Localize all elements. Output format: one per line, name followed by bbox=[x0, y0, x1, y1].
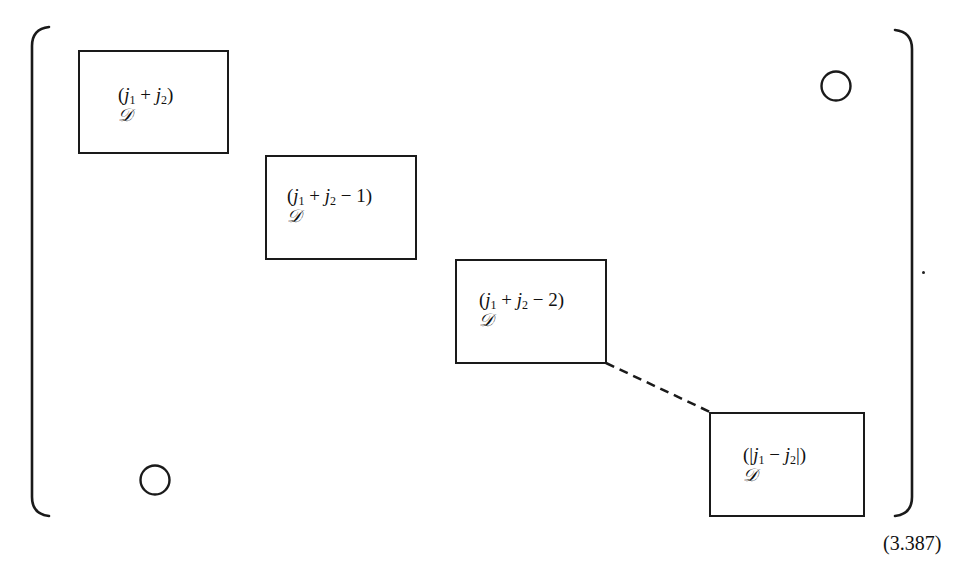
script-d-symbol: 𝒟 bbox=[479, 310, 564, 330]
paren-close: ) bbox=[800, 444, 806, 465]
operator: + bbox=[497, 289, 517, 310]
block-label: (j1 + j2 − 2) 𝒟 bbox=[479, 290, 564, 330]
paren-close: ) bbox=[366, 185, 372, 206]
paren-close: ) bbox=[558, 289, 564, 310]
label-tail: − 1 bbox=[336, 185, 366, 206]
script-d-symbol: 𝒟 bbox=[287, 206, 372, 226]
script-d-symbol: 𝒟 bbox=[743, 465, 806, 485]
label-tail: − 2 bbox=[528, 289, 558, 310]
paren-close: ) bbox=[167, 84, 173, 105]
block-label: (j1 + j2) 𝒟 bbox=[118, 85, 173, 125]
continuation-dashed-line bbox=[606, 363, 710, 412]
zero-marker-lower-left bbox=[141, 466, 170, 495]
block-abs-j1-minus-j2: (|j1 − j2|) 𝒟 bbox=[709, 412, 865, 517]
left-bracket bbox=[32, 27, 49, 516]
equation-number: (3.387) bbox=[883, 532, 941, 555]
operator: + bbox=[136, 84, 156, 105]
operator: − bbox=[764, 444, 784, 465]
paren-open: (| bbox=[743, 444, 753, 465]
block-label: (j1 + j2 − 1) 𝒟 bbox=[287, 186, 372, 226]
block-j1-plus-j2-minus-2: (j1 + j2 − 2) 𝒟 bbox=[455, 259, 607, 364]
right-bracket bbox=[895, 30, 912, 516]
block-j1-plus-j2-minus-1: (j1 + j2 − 1) 𝒟 bbox=[265, 155, 417, 260]
operator: + bbox=[305, 185, 325, 206]
block-label: (|j1 − j2|) 𝒟 bbox=[743, 445, 806, 485]
trailing-period bbox=[922, 271, 925, 274]
block-j1-plus-j2: (j1 + j2) 𝒟 bbox=[78, 50, 229, 154]
zero-marker-upper-right bbox=[822, 72, 851, 101]
script-d-symbol: 𝒟 bbox=[118, 105, 173, 125]
